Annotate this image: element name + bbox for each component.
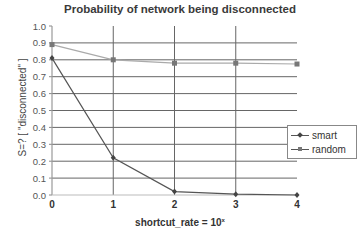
square-marker-icon: [172, 61, 177, 66]
square-marker-icon: [298, 147, 302, 151]
square-marker-icon: [111, 57, 116, 62]
y-tick-label: 1.0: [33, 21, 46, 32]
x-tick-label: 3: [233, 199, 239, 210]
x-tick-label: 1: [110, 199, 116, 210]
y-tick-label: 0.4: [33, 122, 46, 133]
x-tick-label: 4: [294, 199, 300, 210]
y-tick-label: 0.1: [33, 173, 46, 184]
x-tick-label: 2: [172, 199, 178, 210]
y-tick-label: 0.3: [33, 139, 46, 150]
legend-label-random: random: [312, 144, 346, 155]
y-tick-label: 0.0: [33, 190, 46, 201]
plot-area: 0.00.10.20.30.40.50.60.70.80.91.001234: [0, 0, 360, 240]
y-tick-label: 0.8: [33, 54, 46, 65]
diamond-marker-icon: [295, 192, 300, 198]
x-tick-label: 0: [49, 199, 55, 210]
legend-label-smart: smart: [312, 130, 337, 141]
y-tick-label: 0.2: [33, 156, 46, 167]
square-marker-icon: [295, 62, 300, 67]
y-tick-label: 0.5: [33, 105, 46, 116]
diamond-marker-icon: [297, 132, 303, 138]
legend-line-random: [291, 149, 309, 150]
legend: smart random: [287, 125, 357, 159]
diamond-marker-icon: [233, 191, 238, 197]
legend-line-smart: [291, 135, 309, 136]
y-tick-label: 0.7: [33, 71, 46, 82]
legend-item-random: random: [291, 143, 346, 155]
square-marker-icon: [50, 42, 55, 47]
square-marker-icon: [233, 61, 238, 66]
y-tick-label: 0.9: [33, 37, 46, 48]
y-tick-label: 0.6: [33, 88, 46, 99]
diamond-marker-icon: [172, 189, 177, 195]
legend-item-smart: smart: [291, 129, 337, 141]
